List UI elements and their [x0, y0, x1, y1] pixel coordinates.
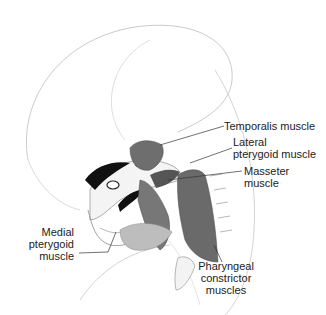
label-pharyngeal-constrictor-line1: Pharyngeal [196, 260, 256, 272]
label-pharyngeal-constrictor-line3: muscles [196, 284, 256, 296]
label-pharyngeal-constrictor-line2: constrictor [196, 272, 256, 284]
label-lateral-pterygoid-line2: pterygoid muscle [233, 148, 316, 160]
label-lateral-pterygoid-line1: Lateral [233, 136, 267, 148]
anatomy-illustration: Temporalis muscle Lateral pterygoid musc… [0, 0, 326, 315]
label-medial-pterygoid-line3: muscle [20, 250, 74, 262]
label-masseter-line1: Masseter [244, 165, 289, 177]
label-medial-pterygoid-line2: pterygoid [20, 238, 74, 250]
label-temporalis-muscle: Temporalis muscle [224, 120, 315, 132]
label-medial-pterygoid-line1: Medial [20, 226, 74, 238]
label-masseter-line2: muscle [244, 177, 279, 189]
